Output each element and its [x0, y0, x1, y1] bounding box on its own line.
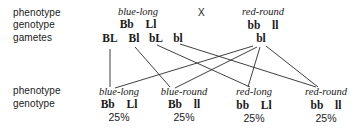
parent1-phenotype: blue-long [118, 7, 158, 18]
line-p2bl-to-red-round [266, 46, 318, 87]
offspring-3-percent: 25% [243, 113, 264, 124]
parent1-gamete-bL: bL [149, 33, 163, 45]
label-genotype-offspring: genotype [13, 99, 55, 109]
parent1-genotype: Bb Ll [120, 19, 157, 31]
parent2-phenotype: red-round [242, 7, 284, 18]
label-gametes: gametes [13, 33, 52, 43]
parent1-gamete-BL: BL [102, 33, 117, 45]
offspring-2-phenotype: blue-round [161, 87, 207, 98]
offspring-3-genotype: bb Ll [236, 100, 271, 112]
offspring-1-genotype: Bb Ll [101, 99, 138, 111]
offspring-4-genotype: bb ll [311, 100, 342, 112]
offspring-4-phenotype: red-round [305, 87, 347, 98]
line-p2bl-to-blue-round [175, 47, 257, 88]
offspring-1-percent: 25% [108, 112, 129, 123]
offspring-2-percent: 25% [173, 112, 194, 123]
label-phenotype-parents: phenotype [13, 8, 61, 18]
offspring-2-genotype: Bb ll [168, 99, 200, 111]
parent1-gamete-Bl: Bl [129, 33, 140, 45]
label-genotype-parents: genotype [13, 20, 55, 30]
line-bl-to-red-round [180, 44, 316, 87]
cross-symbol: X [198, 8, 205, 18]
label-phenotype-offspring: phenotype [13, 86, 61, 96]
line-p2bl-to-red-long [248, 47, 260, 87]
parent1-gamete-bl: bl [173, 33, 183, 45]
offspring-1-phenotype: blue-long [99, 87, 139, 98]
parent2-gamete-bl: bl [256, 33, 266, 45]
offspring-3-phenotype: red-long [236, 87, 272, 98]
offspring-4-percent: 25% [315, 113, 336, 124]
parent2-genotype: bb ll [248, 20, 279, 32]
line-Bl-to-blue-round [135, 47, 170, 87]
line-p2bl-to-blue-long [115, 46, 253, 88]
